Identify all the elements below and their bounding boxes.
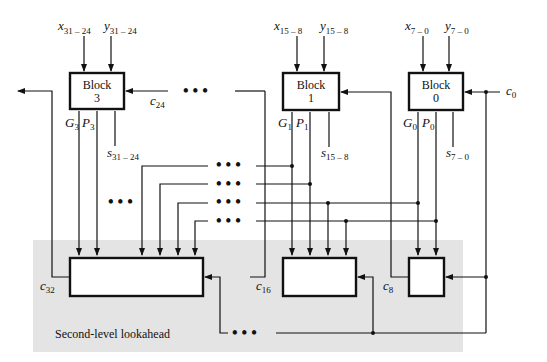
region-label: Second-level lookahead [55, 327, 170, 341]
svg-text:1: 1 [308, 91, 314, 105]
svg-text:• • •: • • • [216, 175, 241, 192]
svg-text:• • •: • • • [216, 193, 241, 210]
lookahead-unit-c8 [409, 258, 444, 296]
svg-text:G1: G1 [278, 115, 292, 132]
svg-text:y7 – 0: y7 – 0 [443, 18, 469, 36]
svg-text:P3: P3 [81, 115, 95, 132]
lookahead-unit-c16 [283, 258, 356, 296]
svg-text:P1: P1 [295, 115, 308, 132]
svg-text:s15 – 8: s15 – 8 [321, 145, 349, 162]
svg-text:P0: P0 [421, 115, 435, 132]
svg-text:c0: c0 [506, 83, 517, 100]
svg-text:x7 – 0: x7 – 0 [404, 18, 429, 36]
svg-text:s31 – 24: s31 – 24 [107, 145, 140, 162]
lookahead-unit-c32 [70, 258, 203, 296]
block-0: x7 – 0 y7 – 0 Block 0 G0 P0 s7 – 0 c0 [403, 18, 517, 255]
svg-text:y15 – 8: y15 – 8 [318, 18, 349, 36]
svg-text:• • •: • • • [216, 156, 241, 173]
svg-text:G3: G3 [65, 115, 79, 132]
svg-text:G0: G0 [403, 115, 417, 132]
svg-text:• • •: • • • [108, 193, 133, 210]
carry-lookahead-diagram: Second-level lookahead x31 – 24 y31 – 24… [0, 0, 547, 362]
svg-text:• • •: • • • [232, 324, 257, 341]
diagram-canvas: Second-level lookahead x31 – 24 y31 – 24… [0, 0, 547, 362]
svg-text:Block: Block [297, 78, 326, 92]
svg-text:x15 – 8: x15 – 8 [273, 18, 303, 36]
block-3: x31 – 24 y31 – 24 Block 3 c24 G3 P3 s31 … [57, 18, 168, 255]
svg-text:Block: Block [83, 78, 112, 92]
svg-text:• • •: • • • [216, 212, 241, 229]
svg-text:s7 – 0: s7 – 0 [446, 145, 470, 162]
svg-text:y31 – 24: y31 – 24 [102, 18, 137, 36]
svg-text:c24: c24 [150, 93, 165, 110]
svg-text:0: 0 [433, 91, 439, 105]
block-1: x15 – 8 y15 – 8 Block 1 G1 P1 s15 – 8 [273, 18, 349, 255]
svg-text:x31 – 24: x31 – 24 [57, 18, 91, 36]
ellipsis: • • • [183, 82, 208, 99]
svg-text:Block: Block [422, 78, 451, 92]
svg-text:3: 3 [94, 91, 100, 105]
